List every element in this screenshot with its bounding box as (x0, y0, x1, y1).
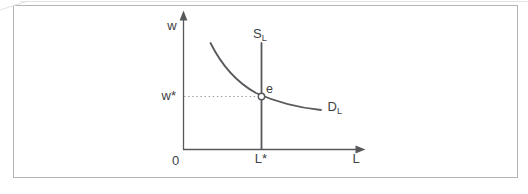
equilibrium-point (258, 93, 264, 99)
supply-curve-label: SL (253, 26, 267, 43)
demand-curve (211, 43, 322, 110)
figure-canvas: w L 0 w* L* SL DL e (0, 0, 528, 194)
demand-curve-label: DL (328, 99, 342, 116)
equilibrium-wage-label: w* (161, 88, 176, 103)
demand-label-main: D (328, 99, 337, 114)
origin-label: 0 (172, 153, 179, 168)
labor-market-diagram: w L 0 w* L* SL DL e (0, 0, 528, 194)
x-axis-label: L (352, 151, 359, 166)
y-axis-arrowhead (180, 11, 188, 21)
supply-label-main: S (253, 26, 262, 41)
scan-artifact-diagonal (0, 1, 28, 10)
equilibrium-labor-label: L* (255, 151, 267, 166)
demand-label-subscript: L (337, 106, 342, 116)
equilibrium-point-label: e (266, 82, 273, 96)
supply-label-subscript: L (262, 33, 267, 43)
y-axis-label: w (166, 18, 177, 33)
